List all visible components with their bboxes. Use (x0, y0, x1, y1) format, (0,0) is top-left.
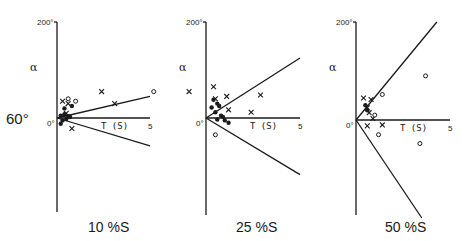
circle-marker (74, 99, 78, 103)
cluster-marker (209, 105, 213, 109)
cluster-marker (70, 104, 74, 108)
cluster-marker (217, 104, 221, 108)
x-axis-label: T (S) (101, 121, 128, 131)
panel-3: 200°0°5T (S)α50 %S (329, 18, 453, 235)
x-tick-max: 5 (448, 124, 453, 133)
fit-line (206, 58, 300, 118)
x-axis-label: T (S) (400, 123, 427, 133)
y-tick-max: 200° (186, 18, 203, 27)
origin-label: 0° (47, 119, 55, 128)
y-tick-max: 200° (37, 18, 54, 27)
cluster-marker (213, 110, 217, 114)
cross-marker (380, 123, 385, 128)
panel-caption: 10 %S (88, 219, 129, 235)
y-axis-label: α (329, 61, 337, 74)
cluster-marker (215, 117, 219, 121)
origin-label: 0° (196, 119, 204, 128)
cross-marker (224, 94, 229, 99)
circle-marker (377, 133, 381, 137)
x-tick-max: 5 (148, 122, 153, 131)
origin-label: 0° (346, 121, 354, 130)
y-axis-label: α (179, 61, 187, 74)
cluster-marker (64, 117, 68, 121)
circle-marker (66, 97, 70, 101)
cluster-marker (221, 115, 225, 119)
panel-1: 200°0°5T (S)α10 %S (30, 18, 156, 235)
circle-marker (418, 142, 422, 146)
x-axis-label: T (S) (250, 121, 277, 131)
cross-marker (211, 84, 216, 89)
cross-marker (361, 96, 366, 101)
y-axis-label: α (30, 61, 38, 74)
cluster-marker (365, 108, 369, 112)
fit-line (356, 22, 437, 120)
cross-marker (249, 110, 254, 115)
circle-marker (373, 113, 377, 117)
cross-marker (187, 89, 192, 94)
circle-marker (424, 74, 428, 78)
cross-marker (60, 99, 65, 104)
panel-2: 200°0°5T (S)α25 %S (179, 18, 303, 235)
cross-marker (69, 126, 74, 131)
side-label: 60° (6, 110, 29, 127)
cluster-marker (62, 112, 66, 116)
fit-line (356, 120, 422, 218)
circle-marker (152, 90, 156, 94)
cluster-marker (62, 106, 66, 110)
cluster-marker (211, 98, 215, 102)
cluster-marker (59, 122, 63, 126)
x-tick-max: 5 (298, 122, 303, 131)
cross-marker (258, 93, 263, 98)
cross-marker (99, 89, 104, 94)
cluster-marker (363, 103, 367, 107)
cross-marker (226, 107, 231, 112)
cluster-marker (68, 115, 72, 119)
panel-caption: 25 %S (236, 219, 277, 235)
circle-marker (380, 93, 384, 97)
cluster-marker (226, 121, 230, 125)
figure-canvas: 200°0°5T (S)α10 %S200°0°5T (S)α25 %S200°… (0, 0, 467, 241)
circle-marker (213, 133, 217, 137)
panel-caption: 50 %S (385, 219, 426, 235)
y-tick-max: 200° (336, 18, 353, 27)
cross-marker (365, 123, 370, 128)
